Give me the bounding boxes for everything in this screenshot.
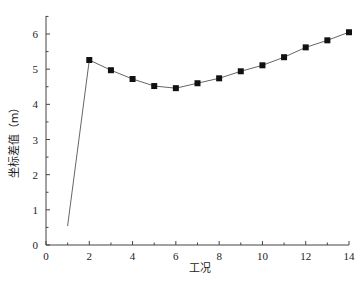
x-tick-label: 14 xyxy=(344,250,356,262)
square-marker xyxy=(238,68,244,74)
square-marker xyxy=(216,75,222,81)
line-chart: 024681012140123456 工况 坐标差值（m） xyxy=(0,0,363,285)
y-tick-label: 4 xyxy=(33,98,39,110)
x-tick-label: 2 xyxy=(87,250,93,262)
y-tick-label: 5 xyxy=(33,63,39,75)
axes: 024681012140123456 xyxy=(33,16,356,262)
square-marker xyxy=(151,83,157,89)
series-line xyxy=(68,32,349,226)
data-series xyxy=(68,29,352,226)
x-tick-label: 10 xyxy=(257,250,269,262)
square-marker xyxy=(86,57,92,63)
square-marker xyxy=(173,85,179,91)
y-tick-label: 6 xyxy=(33,28,39,40)
x-tick-label: 8 xyxy=(216,250,222,262)
x-axis-label: 工况 xyxy=(189,262,211,275)
x-tick-label: 4 xyxy=(130,250,136,262)
y-tick-label: 2 xyxy=(33,169,39,181)
y-tick-label: 0 xyxy=(33,239,39,251)
x-tick-label: 12 xyxy=(300,250,311,262)
square-marker xyxy=(281,54,287,60)
y-tick-label: 1 xyxy=(33,204,39,216)
square-marker xyxy=(195,80,201,86)
square-marker xyxy=(259,62,265,68)
square-marker xyxy=(108,67,114,73)
y-tick-label: 3 xyxy=(33,134,39,146)
square-marker xyxy=(303,44,309,50)
y-axis-label: 坐标差值（m） xyxy=(7,102,21,179)
x-tick-label: 6 xyxy=(173,250,179,262)
square-marker xyxy=(130,76,136,82)
x-tick-label: 0 xyxy=(43,250,49,262)
square-marker xyxy=(324,37,330,43)
square-marker xyxy=(346,29,352,35)
